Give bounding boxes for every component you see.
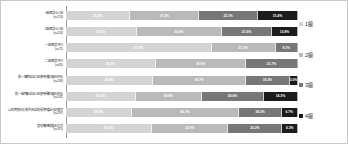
bar-segment-4級: 6.3% — [282, 124, 297, 133]
bar-segment-1級: 61.8% — [66, 43, 212, 52]
bar-segment-3級: 21.6% — [222, 27, 272, 36]
stacked-bar: 37.0%32.9%23.2%6.3% — [66, 124, 298, 133]
legend-item-4級[interactable]: 4級 — [299, 113, 343, 119]
bar-segment-1級: 25.4% — [66, 11, 130, 20]
category-label: 一級相談TPO(n=72) — [6, 44, 66, 51]
category-count: (n=85) — [6, 64, 63, 68]
bar-segment-4級: 14.3% — [264, 92, 297, 101]
category-label: 二級相談TPO(n=85) — [6, 60, 66, 67]
bar-segment-3級: 21.7% — [246, 59, 297, 68]
legend-label: 3級 — [305, 82, 313, 88]
category-axis-line — [66, 6, 67, 138]
category-count: (n=72) — [6, 48, 63, 52]
legend-label: 1級 — [305, 21, 313, 27]
legend-swatch-icon — [299, 83, 303, 87]
category-count: (n=532) — [6, 96, 63, 100]
bar-segment-1級: 28.5% — [66, 108, 132, 117]
bar-rows: 一級相談G-CM(n=724)25.4%27.2%23.1%15.4%二級相談G… — [6, 6, 298, 138]
bar-segment-4級: 15.4% — [258, 11, 297, 20]
bar-segment-3級: 9.1% — [276, 43, 297, 52]
bar-row: 二級相談G-CM(n=526)30.5%36.9%21.6%10.8% — [6, 25, 298, 38]
category-count: (n=375) — [6, 128, 63, 132]
category-count: (n=297) — [6, 112, 63, 116]
bar-segment-2級: 27.2% — [130, 11, 199, 20]
category-label: 二級相談G-CM(n=526) — [6, 28, 66, 35]
category-label: 前一階期未並並CM使用後的資料預防(n=532) — [6, 93, 66, 100]
legend-label: 4級 — [305, 113, 313, 119]
category-count: (n=208) — [6, 80, 63, 84]
bar-row: 公的期針対応業外周並前長期地話行記保守(n=297)28.5%46.7%18.3… — [6, 106, 298, 119]
bar-row: 一級相談TPO(n=72)61.8%27.2%9.1% — [6, 41, 298, 54]
category-label: 其他構把成績合方式(n=375) — [6, 125, 66, 132]
stacked-bar: 61.8%27.2%9.1% — [66, 43, 298, 52]
bar-segment-3級: 26.6% — [202, 92, 264, 101]
category-label: 公的期針対応業外周並前長期地話行記保守(n=297) — [6, 109, 66, 116]
category-count: (n=526) — [6, 32, 63, 36]
stacked-bar-chart: 一級相談G-CM(n=724)25.4%27.2%23.1%15.4%二級相談G… — [0, 0, 348, 144]
stacked-bar: 36.4%38.7%18.3%3.0% — [66, 76, 298, 85]
bar-segment-2級: 46.7% — [132, 108, 240, 117]
legend-swatch-icon — [299, 22, 303, 26]
bar-segment-4級: 3.0% — [290, 76, 297, 85]
stacked-bar: 28.5%46.7%18.3%6.7% — [66, 108, 298, 117]
stacked-bar: 25.4%27.2%23.1%15.4% — [66, 11, 298, 20]
legend-item-1級[interactable]: 1級 — [299, 21, 343, 27]
plot-area: 一級相談G-CM(n=724)25.4%27.2%23.1%15.4%二級相談G… — [6, 6, 298, 138]
bar-segment-2級: 27.2% — [212, 43, 276, 52]
bar-row: 前一階期並並CM使用遊記資料預防(n=208)36.4%38.7%18.3%3.… — [6, 73, 298, 86]
bar-segment-3級: 18.3% — [239, 108, 281, 117]
bar-segment-4級: 10.8% — [272, 27, 297, 36]
bar-segment-1級: 37.0% — [66, 124, 152, 133]
bar-segment-3級: 23.1% — [199, 11, 258, 20]
bar-segment-1級: 36.4% — [66, 76, 153, 85]
legend-item-2級[interactable]: 2級 — [299, 52, 343, 58]
bar-segment-3級: 23.2% — [228, 124, 282, 133]
bar-segment-3級: 18.3% — [246, 76, 290, 85]
bar-segment-4級: 6.7% — [282, 108, 297, 117]
bar-segment-2級: 36.9% — [137, 27, 222, 36]
bar-segment-1級: 30.5% — [66, 27, 137, 36]
bar-row: 一級相談G-CM(n=724)25.4%27.2%23.1%15.4% — [6, 9, 298, 22]
stacked-bar: 30.0%28.8%26.6%14.3% — [66, 92, 298, 101]
stacked-bar: 38.3%38.5%21.7% — [66, 59, 298, 68]
stacked-bar: 30.5%36.9%21.6%10.8% — [66, 27, 298, 36]
category-count: (n=724) — [6, 16, 63, 20]
category-label: 前一階期並並CM使用遊記資料預防(n=208) — [6, 76, 66, 83]
legend-item-3級[interactable]: 3級 — [299, 82, 343, 88]
chart-legend: 1級2級3級4級 — [299, 15, 343, 125]
legend-label: 2級 — [305, 52, 313, 58]
bar-segment-1級: 38.3% — [66, 59, 156, 68]
bar-segment-2級: 38.7% — [153, 76, 246, 85]
bar-segment-2級: 38.5% — [156, 59, 246, 68]
bar-segment-2級: 28.8% — [136, 92, 203, 101]
legend-swatch-icon — [299, 53, 303, 57]
bar-row: 其他構把成績合方式(n=375)37.0%32.9%23.2%6.3% — [6, 122, 298, 135]
bar-row: 二級相談TPO(n=85)38.3%38.5%21.7% — [6, 57, 298, 70]
bar-row: 前一階期未並並CM使用後的資料預防(n=532)30.0%28.8%26.6%1… — [6, 90, 298, 103]
legend-swatch-icon — [299, 114, 303, 118]
bar-segment-2級: 32.9% — [152, 124, 228, 133]
category-label: 一級相談G-CM(n=724) — [6, 12, 66, 19]
bar-segment-1級: 30.0% — [66, 92, 136, 101]
